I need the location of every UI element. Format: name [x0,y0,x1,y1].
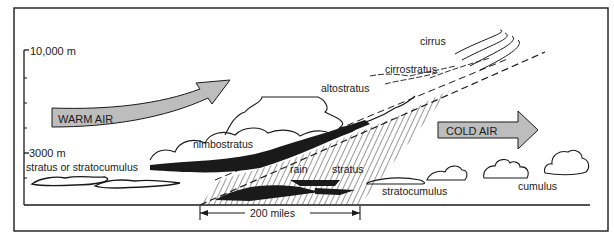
cirrus-cloud [455,30,519,70]
cumulus-label: cumulus [518,180,557,192]
altitude-axis [24,50,29,205]
cirrostratus-label: cirrostratus [385,63,437,75]
stratocumulus-cloud [427,166,467,180]
stratus-cloud [32,177,108,186]
cirrus-label: cirrus [420,35,446,47]
altostratus-label: altostratus [321,82,369,94]
rain-label: rain [290,163,308,175]
cumulus-cloud [545,150,589,174]
nimbostratus-label: nimbostratus [193,138,253,150]
stratocumulus-label: stratocumulus [382,185,447,197]
stratus-label: stratus [332,163,364,175]
warm-front-diagram: 10,000 m 3000 m WARM AIR COLD AIR nimbos… [0,0,614,237]
stratus-stratocumulus-label: stratus or stratocumulus [26,161,138,173]
cold-air-label: COLD AIR [446,125,497,137]
altitude-label-10000: 10,000 m [30,45,76,57]
stratus-cloud [95,180,180,188]
distance-label: 200 miles [250,207,295,219]
cumulus-cloud [484,160,528,178]
warm-air-label: WARM AIR [58,113,113,125]
altitude-label-3000: 3000 m [29,147,66,159]
